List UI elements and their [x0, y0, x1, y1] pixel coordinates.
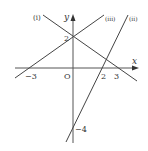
origin-label: O — [64, 72, 71, 81]
tick-x-2: 2 — [101, 72, 106, 81]
tick-y-2: 2 — [64, 34, 69, 43]
line-iii-label: (iii) — [105, 15, 115, 22]
coordinate-diagram: (i) (iii) (ii) y x O −3 2 3 2 −4 — [0, 0, 148, 151]
line-i-label: (i) — [33, 14, 41, 22]
line-ii-label: (ii) — [129, 15, 138, 22]
line-iii — [15, 15, 104, 78]
y-axis-label: y — [63, 12, 70, 22]
tick-x-neg3: −3 — [25, 72, 37, 81]
x-axis-arrow-icon — [132, 66, 139, 71]
tick-y-neg4: −4 — [75, 125, 87, 134]
y-axis-arrow-icon — [71, 14, 76, 21]
x-axis-label: x — [132, 56, 137, 66]
tick-x-3: 3 — [114, 72, 119, 81]
